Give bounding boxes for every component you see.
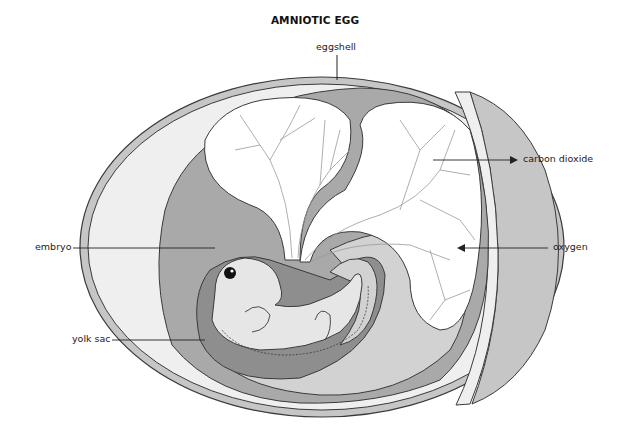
label-embryo: embryo [35, 241, 71, 252]
amniotic-egg-diagram [0, 0, 630, 441]
embryo-eye-highlight [230, 269, 233, 272]
label-eggshell: eggshell [316, 41, 356, 52]
label-yolk-sac: yolk sac [72, 333, 111, 344]
embryo-eye [224, 267, 236, 279]
label-carbon-dioxide: carbon dioxide [523, 153, 593, 164]
label-oxygen: oxygen [553, 241, 588, 252]
